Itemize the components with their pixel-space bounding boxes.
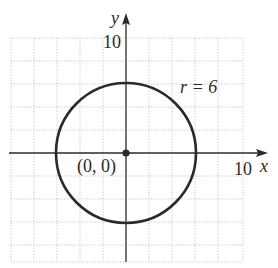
diagram-canvas: y 10 x 10 r = 6 (0, 0) (0, 0, 278, 268)
x-axis-label: x (259, 156, 268, 176)
y-tick-label: 10 (103, 32, 121, 52)
origin-label: (0, 0) (77, 156, 116, 177)
radius-label: r = 6 (180, 77, 217, 97)
y-axis-label: y (109, 8, 119, 28)
circle-diagram: y 10 x 10 r = 6 (0, 0) (0, 0, 278, 268)
x-axis (9, 149, 268, 157)
y-axis (122, 13, 130, 262)
x-tick-label: 10 (234, 159, 252, 179)
origin-point (122, 149, 129, 156)
